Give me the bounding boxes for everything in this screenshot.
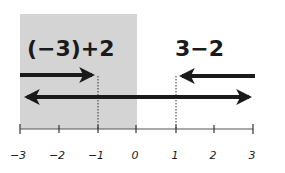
shaded-negative-region [20,14,137,129]
tick-label: 1 [172,149,179,162]
number-line-diagram: (−3)+2 3−2 −3 −2 −1 0 1 2 3 [0,0,285,173]
right-expression-label: 3−2 [175,36,224,61]
tick-label: −2 [49,149,65,162]
tick-label: −1 [88,149,104,162]
tick-labels: −3 −2 −1 0 1 2 3 [10,149,256,162]
tick-label: −3 [10,149,26,162]
tick-label: 3 [249,149,256,162]
tick-label: 0 [132,149,139,162]
tick-label: 2 [210,149,217,162]
left-expression-label: (−3)+2 [27,36,115,61]
